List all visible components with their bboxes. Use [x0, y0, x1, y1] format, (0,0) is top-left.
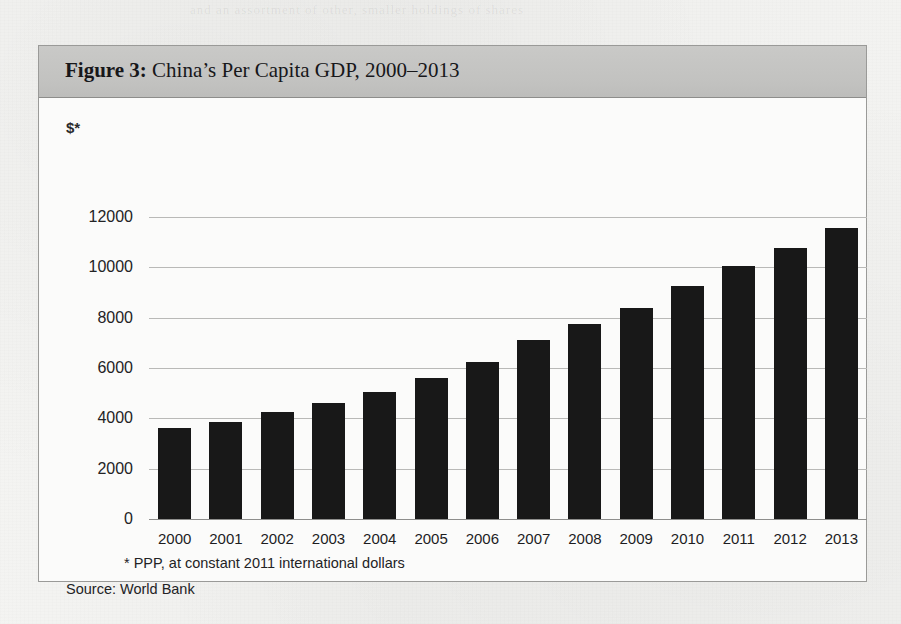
x-axis-tick-label: 2008 — [568, 530, 601, 547]
figure-title: Figure 3: China’s Per Capita GDP, 2000–2… — [65, 58, 460, 83]
bar-2009 — [620, 308, 653, 519]
x-axis-tick-label: 2002 — [261, 530, 294, 547]
x-axis-tick-label: 2001 — [209, 530, 242, 547]
bar-2007 — [517, 340, 550, 519]
x-axis-tick-label: 2011 — [723, 530, 755, 547]
x-axis-tick-label: 2005 — [414, 530, 447, 547]
x-axis-tick-label: 2006 — [466, 530, 499, 547]
x-axis-tick-label: 2000 — [158, 530, 191, 547]
bar-2011 — [722, 266, 755, 519]
bar-2000 — [158, 428, 191, 519]
figure-number-label: Figure 3: — [65, 58, 147, 82]
bar-2006 — [466, 362, 499, 519]
bar-2004 — [363, 392, 396, 519]
figure-title-band: Figure 3: China’s Per Capita GDP, 2000–2… — [39, 46, 866, 98]
chart-footnote: * PPP, at constant 2011 international do… — [124, 555, 405, 571]
figure-title-text: China’s Per Capita GDP, 2000–2013 — [147, 58, 460, 82]
figure-container: Figure 3: China’s Per Capita GDP, 2000–2… — [38, 45, 867, 582]
x-axis-tick-label: 2007 — [517, 530, 550, 547]
bars-layer: 2000200120022003200420052006200720082009… — [39, 98, 866, 581]
bar-2003 — [312, 403, 345, 519]
bar-2012 — [774, 248, 807, 519]
x-axis-tick-label: 2012 — [773, 530, 806, 547]
chart-plot-area: $* 020004000600080001000012000 200020012… — [39, 98, 866, 581]
bar-2010 — [671, 286, 704, 519]
bar-2002 — [261, 412, 294, 519]
x-axis-tick-label: 2013 — [825, 530, 858, 547]
bar-2001 — [209, 422, 242, 519]
bar-2008 — [568, 324, 601, 519]
x-axis-tick-label: 2004 — [363, 530, 396, 547]
chart-source: Source: World Bank — [66, 581, 195, 597]
bar-2005 — [415, 378, 448, 519]
bar-2013 — [825, 228, 858, 519]
x-axis-tick-label: 2009 — [620, 530, 653, 547]
x-axis-tick-label: 2010 — [671, 530, 704, 547]
x-axis-tick-label: 2003 — [312, 530, 345, 547]
